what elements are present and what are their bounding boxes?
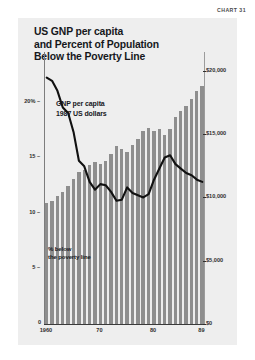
axis-right-tick-10000: $10,000 — [206, 193, 226, 199]
axis-x-tick-1970: 70 — [96, 327, 102, 333]
axis-x-tick-1960: 1960 — [40, 327, 52, 333]
axis-left-tick-15: 15 – — [10, 153, 40, 159]
axis-left-tick-5: 5 – — [10, 264, 40, 270]
line-series-caption: % below the poverty line — [48, 245, 91, 261]
axis-right-tickmark-20000 — [203, 71, 206, 72]
axis-right-tickmark-0 — [203, 324, 206, 325]
axis-zero-label: 0 — [38, 319, 41, 325]
page-title-line-2: and Percent of Population — [34, 39, 194, 52]
chart-number-label: CHART 31 — [217, 7, 246, 13]
line-series-caption-line-1: % below — [48, 245, 91, 253]
axis-right-tickmark-5000 — [203, 261, 206, 262]
axis-bottom — [44, 324, 205, 325]
axis-x-tick-1989: 89 — [198, 327, 204, 333]
axis-right-tickmark-15000 — [203, 134, 206, 135]
plot-area — [45, 52, 204, 324]
axis-right — [204, 52, 206, 324]
page-title-line-1: US GNP per capita — [34, 26, 194, 39]
axis-right-tick-5000: $5,000 — [206, 257, 223, 263]
axis-right-tick-20000: $20,000 — [206, 67, 226, 73]
poverty-line-svg — [45, 52, 204, 324]
poverty-line-series — [45, 52, 204, 324]
chart-page: CHART 31 US GNP per capita and Percent o… — [0, 0, 255, 360]
axis-right-tick-0: $0 — [206, 320, 212, 326]
line-series-caption-line-2: the poverty line — [48, 253, 91, 261]
axis-x-tick-1980: 80 — [150, 327, 156, 333]
axis-left — [44, 52, 45, 324]
axis-left-tick-20: 20% – — [10, 98, 40, 104]
axis-left-tick-10: 10 – — [10, 209, 40, 215]
axis-right-tick-15000: $15,000 — [206, 130, 226, 136]
axis-right-tickmark-10000 — [203, 197, 206, 198]
